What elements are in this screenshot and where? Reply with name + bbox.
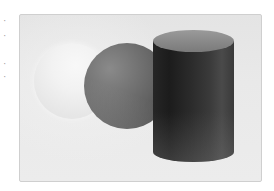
clipped-text-fragment: ·: [0, 17, 6, 26]
cylinder-top: [153, 30, 234, 52]
clipped-text-fragment: ·: [0, 73, 6, 82]
cylinder-body: [153, 41, 234, 162]
cylinder: [153, 30, 234, 162]
clipped-text-fragment: ·: [0, 32, 6, 41]
figure-frame: [19, 14, 262, 182]
clipped-text-fragment: ·: [0, 60, 6, 69]
